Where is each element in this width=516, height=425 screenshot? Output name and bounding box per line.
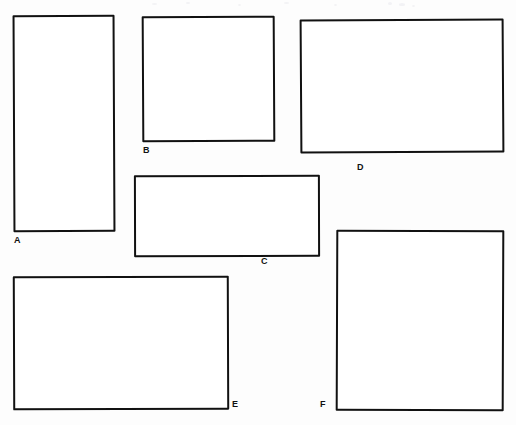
rectangle-c[interactable] [134, 175, 320, 257]
rectangle-d[interactable] [300, 18, 505, 153]
worksheet-canvas: A B C D E F [0, 0, 516, 425]
rectangle-c-label: C [261, 257, 268, 266]
rectangle-f[interactable] [336, 230, 505, 412]
scan-speckle [399, 3, 405, 6]
scan-speckle [334, 4, 337, 6]
rectangle-f-label: F [320, 400, 326, 409]
rectangle-e-label: E [232, 400, 238, 409]
scan-speckle [388, 2, 392, 5]
scan-speckle [186, 2, 190, 4]
rectangle-d-label: D [357, 163, 364, 172]
scan-speckle [152, 3, 157, 5]
rectangle-a-label: A [14, 236, 21, 245]
rectangle-e[interactable] [13, 276, 229, 411]
scan-speckle [284, 2, 289, 4]
scan-speckle [412, 5, 415, 7]
rectangle-a[interactable] [13, 15, 116, 232]
rectangle-b[interactable] [142, 16, 276, 143]
scan-speckle [238, 4, 241, 6]
rectangle-b-label: B [143, 146, 150, 155]
